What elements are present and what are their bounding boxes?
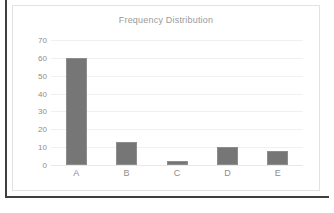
y-tick-label-50: 50: [17, 71, 47, 80]
chart-title: Frequency Distribution: [13, 15, 319, 25]
chart-panel: Frequency Distribution 010203040506070 A…: [12, 5, 320, 191]
bar-E[interactable]: [267, 151, 288, 165]
y-tick-label-30: 30: [17, 107, 47, 116]
x-tick-label-D: D: [224, 168, 231, 178]
x-tick-label-B: B: [124, 168, 130, 178]
x-tick-label-A: A: [73, 168, 79, 178]
frame-bottom-edge: [5, 196, 329, 198]
y-tick-label-20: 20: [17, 125, 47, 134]
x-axis: ABCDE: [51, 168, 303, 184]
bar-C[interactable]: [167, 161, 188, 165]
y-tick-label-60: 60: [17, 53, 47, 62]
bar-A[interactable]: [66, 58, 87, 165]
x-tick-label-C: C: [174, 168, 181, 178]
gridline-0: [51, 165, 303, 166]
page-frame: Frequency Distribution 010203040506070 A…: [0, 0, 334, 213]
bar-B[interactable]: [116, 142, 137, 165]
bar-series: [51, 40, 303, 165]
y-tick-label-70: 70: [17, 36, 47, 45]
y-tick-label-10: 10: [17, 143, 47, 152]
y-tick-label-40: 40: [17, 89, 47, 98]
x-tick-label-E: E: [275, 168, 281, 178]
bar-D[interactable]: [217, 147, 238, 165]
frame-left-edge: [5, 0, 7, 198]
y-tick-label-0: 0: [17, 161, 47, 170]
y-axis: 010203040506070: [15, 40, 47, 165]
